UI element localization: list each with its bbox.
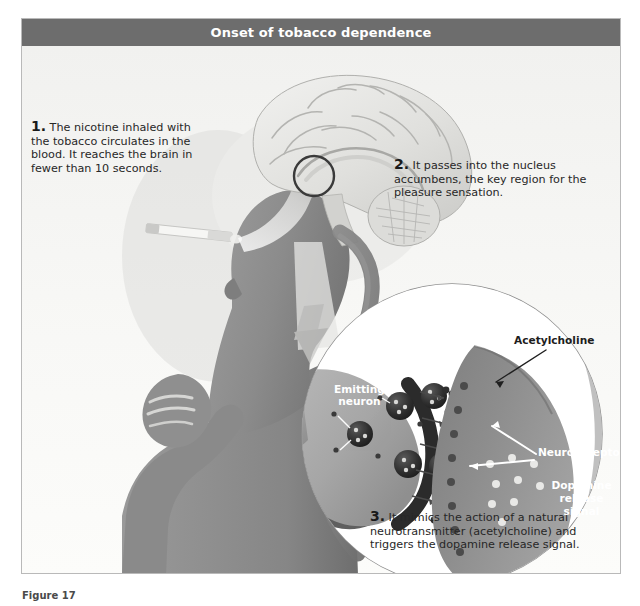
figure-caption-text: Figure 17	[22, 590, 76, 601]
figure-caption: Figure 17	[22, 590, 76, 604]
step-3-number: 3.	[370, 508, 385, 524]
illustration-canvas: 1. The nicotine inhaled with the tobacco…	[22, 46, 620, 574]
step-1-number: 1.	[31, 118, 46, 134]
figure-panel: Onset of tobacco dependence	[21, 18, 621, 574]
figure-title-bar: Onset of tobacco dependence	[22, 19, 620, 46]
figure-root: Onset of tobacco dependence	[0, 0, 640, 606]
label-emitting-neuron: Emitting neuron	[334, 383, 385, 407]
label-acetylcholine: Acetylcholine	[514, 334, 594, 346]
step-2-text: 2. It passes into the nucleus accumbens,…	[394, 158, 599, 200]
figure-title: Onset of tobacco dependence	[211, 25, 432, 40]
step-1-text: 1. The nicotine inhaled with the tobacco…	[31, 120, 209, 175]
label-dopamine-release: Dopamine release signal	[543, 479, 620, 518]
label-neuroreceptors: Neuroreceptors	[538, 446, 620, 458]
step-2-body: It passes into the nucleus accumbens, th…	[394, 159, 586, 199]
step-2-number: 2.	[394, 156, 409, 172]
step-1-body: The nicotine inhaled with the tobacco ci…	[31, 121, 192, 175]
